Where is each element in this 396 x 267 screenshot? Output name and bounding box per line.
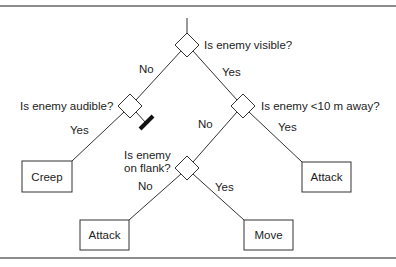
edge-label-flank-yes: Yes	[215, 181, 234, 194]
decision-label-near: Is enemy <10 m away?	[261, 100, 380, 113]
edge-audible-no	[136, 112, 146, 123]
edge-flank-no	[129, 174, 181, 220]
diagram-lines	[0, 0, 396, 267]
decision-tree-diagram: Is enemy visible? Is enemy audible? Is e…	[0, 0, 396, 267]
decision-label-flank-line1: Is enemy	[124, 149, 171, 162]
action-label-creep: Creep	[22, 161, 72, 192]
decision-label-visible: Is enemy visible?	[204, 39, 292, 52]
decision-label-flank-line2: on flank?	[124, 162, 171, 175]
action-label-attack-flank: Attack	[80, 220, 129, 250]
edge-label-near-yes: Yes	[278, 121, 297, 134]
decision-label-audible: Is enemy audible?	[20, 100, 113, 113]
edge-label-visible-no: No	[139, 63, 154, 76]
edge-label-near-no: No	[198, 118, 213, 131]
edge-near-yes	[249, 112, 302, 162]
edge-label-flank-no: No	[138, 180, 153, 193]
action-label-attack-near: Attack	[302, 162, 351, 192]
edge-label-visible-yes: Yes	[222, 66, 241, 79]
edge-label-audible-yes: Yes	[70, 124, 89, 137]
action-label-move: Move	[244, 220, 293, 250]
